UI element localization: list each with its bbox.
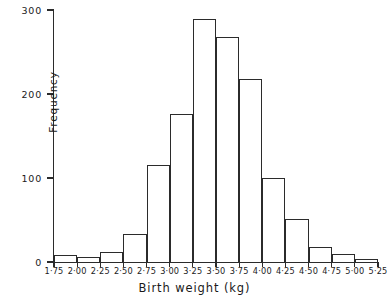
histogram-bar <box>262 178 285 262</box>
histogram-bar <box>332 254 355 262</box>
x-tick-label: 4·00 <box>253 266 272 276</box>
y-tick-label: 0 <box>35 257 42 268</box>
histogram-bar <box>100 252 123 262</box>
y-tick-label: 100 <box>21 173 42 184</box>
y-tick-mark <box>47 177 54 178</box>
histogram-bar <box>170 114 193 262</box>
histogram-bar <box>285 219 308 262</box>
y-tick-label: 300 <box>21 5 42 16</box>
x-tick-label: 2·75 <box>137 266 156 276</box>
y-tick-label: 200 <box>21 89 42 100</box>
x-tick-label: 3·00 <box>160 266 179 276</box>
x-tick-label: 4·75 <box>322 266 341 276</box>
histogram-figure: 0100200300 1·752·002·252·502·753·003·253… <box>0 0 389 302</box>
x-tick-label: 5·00 <box>345 266 364 276</box>
y-axis-title: Frequency <box>47 47 59 157</box>
x-tick-label: 4·25 <box>276 266 295 276</box>
x-tick-label: 1·75 <box>44 266 63 276</box>
histogram-bars <box>54 10 378 262</box>
x-tick-label: 3·50 <box>206 266 225 276</box>
x-tick-label: 2·25 <box>91 266 110 276</box>
histogram-bar <box>239 79 262 262</box>
x-tick-label: 2·00 <box>68 266 87 276</box>
x-tick-label: 2·50 <box>114 266 133 276</box>
histogram-bar <box>216 37 239 262</box>
histogram-bar <box>123 234 146 262</box>
histogram-bar <box>147 165 170 262</box>
histogram-bar <box>309 247 332 262</box>
x-tick-label: 4·50 <box>299 266 318 276</box>
x-axis-title: Birth weight (kg) <box>0 281 389 295</box>
histogram-bar <box>355 259 378 262</box>
x-tick-label: 5·25 <box>368 266 387 276</box>
histogram-bar <box>193 19 216 262</box>
y-tick-mark <box>47 9 54 10</box>
histogram-bar <box>77 257 100 262</box>
x-tick-label: 3·75 <box>230 266 249 276</box>
x-tick-label: 3·25 <box>183 266 202 276</box>
histogram-bar <box>54 255 77 262</box>
